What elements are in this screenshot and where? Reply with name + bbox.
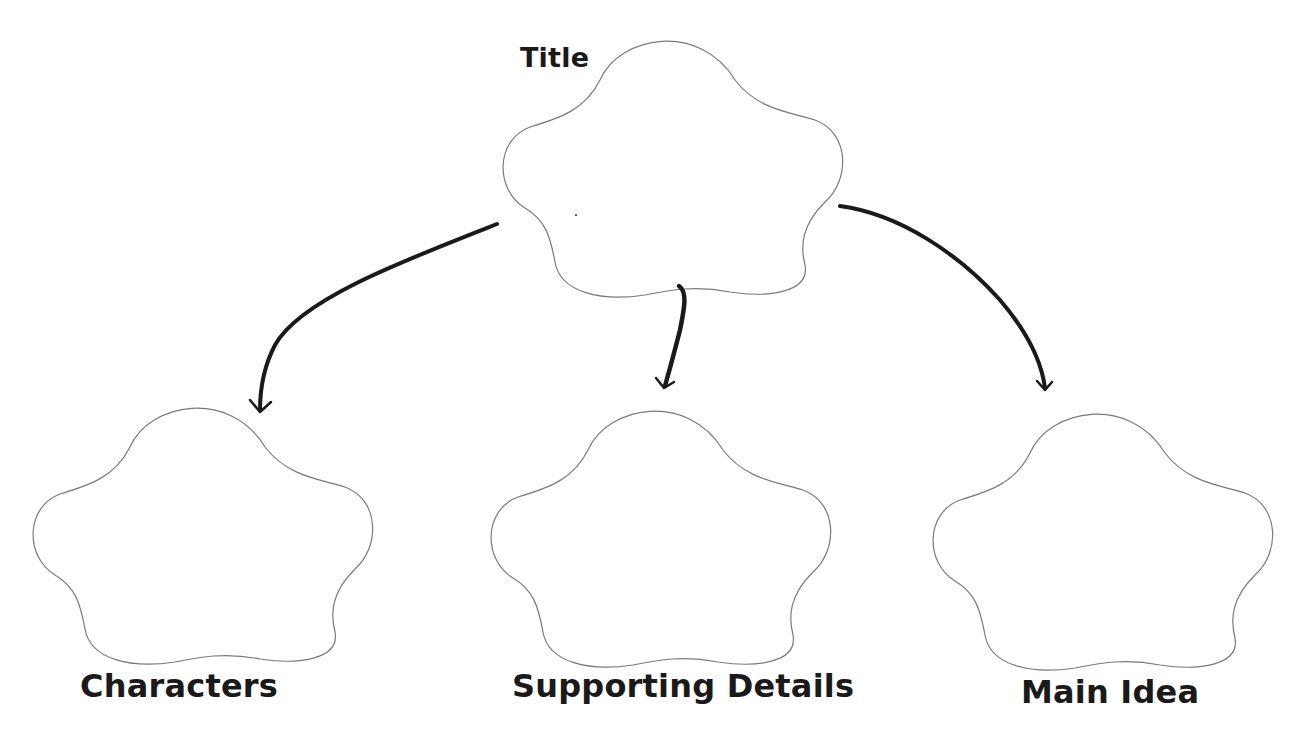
cloud-characters[interactable] [33,408,373,664]
arrow-title-to-characters [250,224,497,412]
label-main-idea: Main Idea [1021,673,1199,711]
label-title: Title [520,42,589,73]
arrow-title-to-supporting-details [656,286,684,388]
arrow-title-to-main-idea [840,206,1052,390]
label-characters: Characters [80,667,278,705]
cloud-main-idea[interactable] [933,414,1273,670]
organizer-canvas [0,0,1301,729]
cloud-supporting-details[interactable] [491,411,831,667]
cloud-title[interactable] [503,41,843,297]
speck [575,214,577,216]
label-supporting-details: Supporting Details [512,667,854,705]
